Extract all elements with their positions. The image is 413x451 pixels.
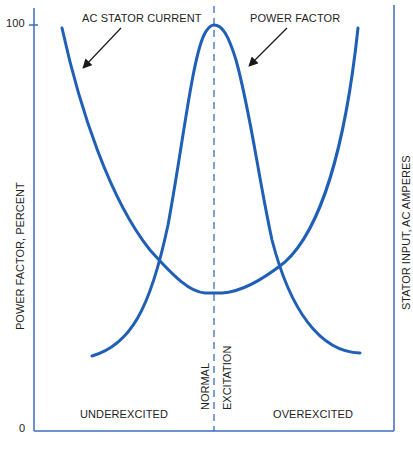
y-tick-label-0: 0 — [19, 422, 25, 434]
right-axis-title: STATOR INPUT, AC AMPERES — [400, 155, 412, 310]
ac-stator-current-arrow — [84, 28, 121, 67]
overexcited-label: OVEREXCITED — [273, 408, 353, 420]
excitation-label: EXCITATION — [221, 346, 233, 410]
synchronous-motor-v-curve-diagram: 100 0 AC STATOR CURRENT POWER FACTOR POW… — [0, 0, 413, 451]
underexcited-label: UNDEREXCITED — [80, 408, 168, 420]
power-factor-curve — [92, 25, 360, 356]
ac-stator-current-curve — [62, 28, 358, 293]
normal-label: NORMAL — [199, 363, 211, 410]
power-factor-arrow — [250, 28, 287, 65]
left-axis-title: POWER FACTOR, PERCENT — [14, 182, 26, 330]
ac-stator-current-label: AC STATOR CURRENT — [82, 12, 202, 24]
y-tick-label-100: 100 — [6, 17, 25, 29]
power-factor-label: POWER FACTOR — [250, 12, 340, 24]
